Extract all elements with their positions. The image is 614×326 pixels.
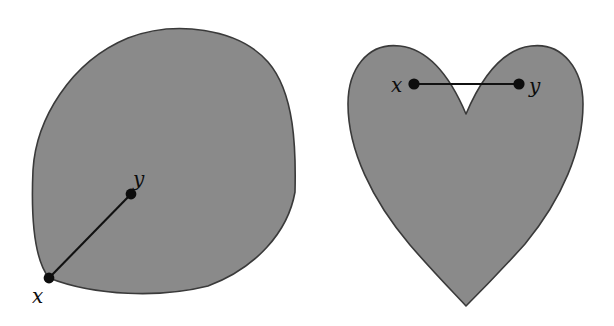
figure-canvas: x y x y <box>0 0 614 326</box>
nonconvex-label-x: x <box>391 73 402 97</box>
convex-label-x: x <box>32 284 43 308</box>
convex-label-y: y <box>132 167 145 191</box>
nonconvex-point-x-dot <box>408 78 419 89</box>
convex-point-x-dot <box>44 273 55 284</box>
nonconvex-point-y-dot <box>513 78 524 89</box>
figure-container: x y x y <box>0 0 614 326</box>
nonconvex-label-y: y <box>528 74 541 98</box>
